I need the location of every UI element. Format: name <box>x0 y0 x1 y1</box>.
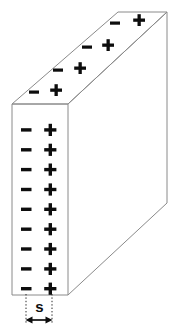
minus-icon <box>21 287 32 290</box>
minus-icon <box>21 247 32 250</box>
dimension-label-s: s <box>35 298 43 315</box>
figure-container: s <box>0 0 174 329</box>
minus-icon <box>21 168 32 171</box>
minus-icon <box>21 267 32 270</box>
minus-icon <box>21 208 32 211</box>
dimension-arrow-head-left <box>26 317 33 324</box>
minus-icon <box>110 22 120 25</box>
minus-icon <box>82 46 92 49</box>
minus-icon <box>21 128 32 131</box>
slab-body <box>12 12 167 295</box>
minus-icon <box>21 188 32 191</box>
dimension-annotation-s: s <box>26 294 53 324</box>
front-face-fill <box>12 104 68 295</box>
minus-icon <box>29 91 39 94</box>
minus-icon <box>21 228 32 231</box>
dimension-arrow-head-right <box>46 317 53 324</box>
charged-slab-diagram: s <box>0 0 174 329</box>
minus-icon <box>21 148 32 151</box>
minus-icon <box>53 69 63 72</box>
